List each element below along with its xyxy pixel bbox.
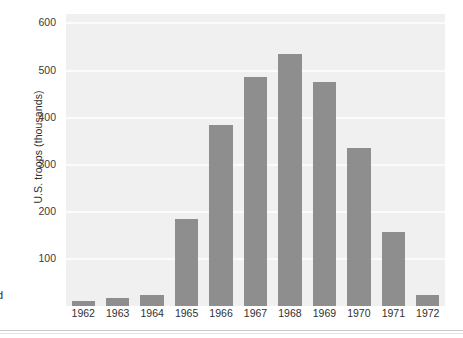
x-tick-label-1967: 1967 [238,307,272,319]
y-tick-label-400: 400 [38,111,56,123]
x-tick-label-1969: 1969 [307,307,341,319]
page-footer-rule-secondary [0,333,463,334]
bar-1967 [244,77,267,306]
x-tick-label-1968: 1968 [273,307,307,319]
x-axis-tick-labels: 1962196319641965196619671968196919701971… [66,307,445,323]
page-footer-rule [0,330,463,331]
bar-1972 [416,295,439,306]
plot-area [66,14,445,306]
y-axis-tick-labels: 100200300400500600 [0,0,60,338]
x-tick-label-1971: 1971 [376,307,410,319]
bar-1970 [347,148,370,306]
y-tick-label-600: 600 [38,16,56,28]
bar-1964 [140,295,163,306]
bar-1969 [313,82,336,306]
x-tick-label-1965: 1965 [169,307,203,319]
bar-1962 [72,301,95,306]
x-tick-label-1966: 1966 [204,307,238,319]
x-tick-label-1963: 1963 [100,307,134,319]
bar-1963 [106,298,129,306]
bar-1968 [278,54,301,306]
x-tick-label-1962: 1962 [66,307,100,319]
bar-1966 [209,125,232,306]
y-tick-label-300: 300 [38,158,56,170]
x-tick-label-1970: 1970 [342,307,376,319]
y-tick-label-500: 500 [38,64,56,76]
x-tick-label-1964: 1964 [135,307,169,319]
bar-1965 [175,219,198,306]
y-tick-label-200: 200 [38,205,56,217]
x-tick-label-1972: 1972 [411,307,445,319]
chart-figure: d U.S. troops (thousands) 10020030040050… [0,0,463,338]
y-tick-label-100: 100 [38,252,56,264]
bar-1971 [382,232,405,306]
bar-series [66,14,445,306]
